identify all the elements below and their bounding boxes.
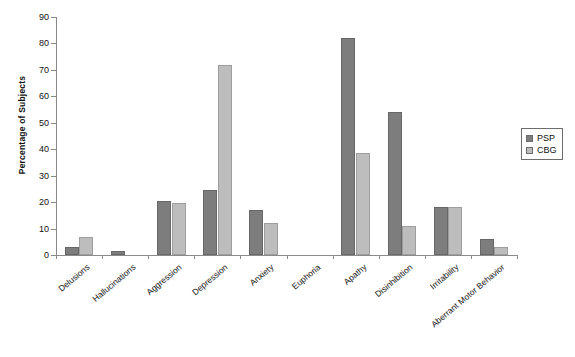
bar-cbg-apathy bbox=[356, 153, 370, 255]
y-tick-mark bbox=[51, 96, 56, 97]
y-tick-mark bbox=[51, 176, 56, 177]
bar-group bbox=[203, 17, 232, 255]
bar-chart-figure: Percentage of Subjects 01020304050607080… bbox=[0, 0, 575, 357]
y-tick-mark bbox=[51, 43, 56, 44]
bar-psp-apathy bbox=[341, 38, 355, 255]
bar-group bbox=[480, 17, 509, 255]
y-tick-label: 30 bbox=[39, 171, 49, 181]
y-axis-line bbox=[56, 17, 57, 255]
y-tick-mark bbox=[51, 17, 56, 18]
bar-cbg-aberrant-motor-behavior bbox=[494, 247, 508, 255]
bar-cbg-anxiety bbox=[264, 223, 278, 255]
x-category-label-text: Euphoria bbox=[289, 262, 321, 292]
legend-label: CBG bbox=[537, 144, 557, 156]
bar-group bbox=[295, 17, 324, 255]
y-tick-label: 10 bbox=[39, 224, 49, 234]
legend-item: CBG bbox=[526, 144, 557, 156]
bar-psp-disinhibition bbox=[388, 112, 402, 255]
x-category-label-text: Disinhibition bbox=[373, 262, 415, 299]
bar-cbg-irritability bbox=[448, 207, 462, 255]
x-category-label-text: Apathy bbox=[341, 262, 368, 287]
y-tick-mark bbox=[51, 123, 56, 124]
plot-area: 0102030405060708090 bbox=[56, 17, 517, 255]
bar-cbg-depression bbox=[218, 65, 232, 255]
bar-group bbox=[434, 17, 463, 255]
bar-psp-delusions bbox=[65, 247, 79, 255]
y-tick-mark bbox=[51, 149, 56, 150]
y-tick-label: 0 bbox=[44, 250, 49, 260]
y-tick-label: 20 bbox=[39, 197, 49, 207]
y-tick-label: 90 bbox=[39, 12, 49, 22]
y-tick-label: 70 bbox=[39, 65, 49, 75]
x-category-label-text: Irritability bbox=[428, 262, 460, 292]
x-category-label-text: Hallucinations bbox=[91, 262, 138, 304]
y-tick-label: 50 bbox=[39, 118, 49, 128]
y-tick-mark bbox=[51, 70, 56, 71]
bar-group bbox=[388, 17, 417, 255]
x-category-label-text: Delusions bbox=[56, 262, 91, 294]
chart-legend: PSPCBG bbox=[521, 128, 563, 160]
y-tick-mark bbox=[51, 229, 56, 230]
y-tick-mark bbox=[51, 202, 56, 203]
x-category-label-text: Anxiety bbox=[248, 262, 276, 288]
y-axis-title: Percentage of Subjects bbox=[17, 40, 27, 210]
bar-group bbox=[157, 17, 186, 255]
x-tick-mark bbox=[56, 255, 57, 259]
bar-cbg-aggression bbox=[172, 203, 186, 255]
bar-cbg-disinhibition bbox=[402, 226, 416, 255]
bar-group bbox=[249, 17, 278, 255]
bar-cbg-delusions bbox=[79, 237, 93, 256]
bar-psp-hallucinations bbox=[111, 251, 125, 255]
y-tick-label: 40 bbox=[39, 144, 49, 154]
y-tick-label: 60 bbox=[39, 91, 49, 101]
bar-group bbox=[111, 17, 140, 255]
bar-group bbox=[65, 17, 94, 255]
x-category-label-text: Aggression bbox=[145, 262, 184, 297]
legend-item: PSP bbox=[526, 132, 557, 144]
x-category-label-text: Depression bbox=[190, 262, 229, 297]
y-tick-label: 80 bbox=[39, 38, 49, 48]
legend-swatch-psp bbox=[526, 135, 533, 142]
bar-group bbox=[341, 17, 370, 255]
legend-label: PSP bbox=[537, 132, 555, 144]
legend-swatch-cbg bbox=[526, 147, 533, 154]
